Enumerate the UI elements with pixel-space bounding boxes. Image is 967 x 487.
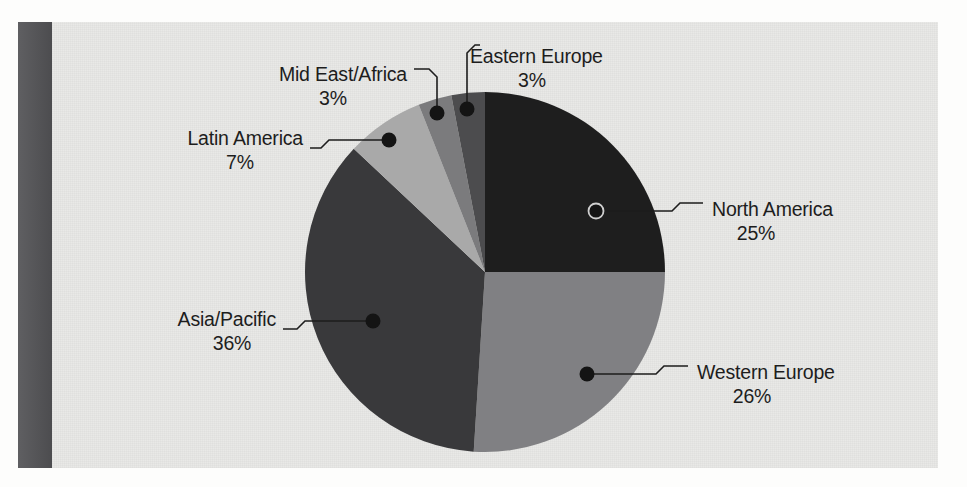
pie-chart-page: North America25%Western Europe26%Asia/Pa… <box>0 0 967 487</box>
slice-label-north-america: North America <box>712 198 833 220</box>
callout-dot-latin-america <box>382 133 397 148</box>
slice-label-eastern-europe: Eastern Europe <box>470 45 603 67</box>
pie-chart: North America25%Western Europe26%Asia/Pa… <box>0 0 967 487</box>
slice-label-asia-pacific: Asia/Pacific <box>178 308 277 330</box>
pie-slices-group <box>305 92 665 452</box>
slice-percent-mid-east-africa: 3% <box>319 87 347 109</box>
slice-percent-asia-pacific: 36% <box>213 332 251 354</box>
slice-percent-north-america: 25% <box>737 222 775 244</box>
slice-percent-latin-america: 7% <box>226 151 254 173</box>
callout-dot-mid-east-africa <box>430 106 445 121</box>
pie-slice-western-europe[interactable] <box>474 272 665 452</box>
callout-dot-asia-pacific <box>366 314 381 329</box>
slice-percent-eastern-europe: 3% <box>518 69 546 91</box>
slice-label-latin-america: Latin America <box>187 127 303 149</box>
slice-percent-western-europe: 26% <box>733 385 771 407</box>
slice-label-western-europe: Western Europe <box>697 361 835 383</box>
callout-dot-north-america <box>589 204 604 219</box>
pie-slice-north-america[interactable] <box>485 92 665 272</box>
callout-dot-western-europe <box>580 367 595 382</box>
slice-label-mid-east-africa: Mid East/Africa <box>279 63 407 85</box>
callout-dot-eastern-europe <box>460 102 475 117</box>
